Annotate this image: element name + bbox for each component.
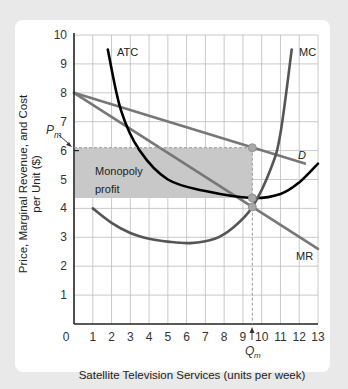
svg-text:8: 8: [60, 86, 67, 100]
profit-label-1: Monopoly: [95, 165, 143, 177]
svg-text:1: 1: [89, 330, 96, 344]
mr-label: MR: [296, 250, 313, 262]
x-axis-title: Satellite Television Services (units per…: [79, 369, 306, 381]
svg-text:7: 7: [202, 330, 209, 344]
svg-text:m: m: [54, 130, 62, 140]
demand-label: D: [298, 149, 306, 161]
svg-text:6: 6: [183, 330, 190, 344]
svg-text:1: 1: [60, 288, 67, 302]
svg-text:5: 5: [165, 330, 172, 344]
svg-text:2: 2: [60, 259, 67, 273]
svg-text:11: 11: [274, 330, 287, 344]
monopoly-chart: 01234567891011121312345678910 Monopoly p…: [0, 0, 348, 389]
svg-text:2: 2: [108, 330, 115, 344]
svg-text:m: m: [254, 351, 261, 360]
svg-text:Q: Q: [245, 344, 254, 358]
svg-text:per Unit ($): per Unit ($): [30, 155, 42, 213]
svg-text:13: 13: [311, 330, 325, 344]
svg-text:P: P: [46, 123, 54, 137]
svg-text:6: 6: [60, 144, 67, 158]
svg-text:10: 10: [255, 330, 269, 344]
svg-text:4: 4: [60, 201, 67, 215]
mc-label: MC: [299, 46, 316, 58]
svg-text:Price, Marginal Revenue, and C: Price, Marginal Revenue, and Cost: [17, 94, 29, 273]
y-axis-title: Price, Marginal Revenue, and Cost per Un…: [17, 94, 42, 273]
profit-label-2: profit: [95, 183, 119, 195]
svg-text:9: 9: [60, 57, 67, 71]
svg-text:9: 9: [240, 330, 247, 344]
pm-label: P m: [46, 123, 72, 147]
svg-text:8: 8: [221, 330, 228, 344]
svg-text:3: 3: [60, 230, 67, 244]
svg-text:7: 7: [60, 115, 67, 129]
svg-text:0: 0: [63, 330, 70, 344]
svg-text:12: 12: [293, 330, 307, 344]
svg-text:10: 10: [54, 28, 68, 42]
svg-text:4: 4: [146, 330, 153, 344]
svg-text:5: 5: [60, 173, 67, 187]
atc-label: ATC: [117, 46, 138, 58]
svg-text:3: 3: [127, 330, 134, 344]
